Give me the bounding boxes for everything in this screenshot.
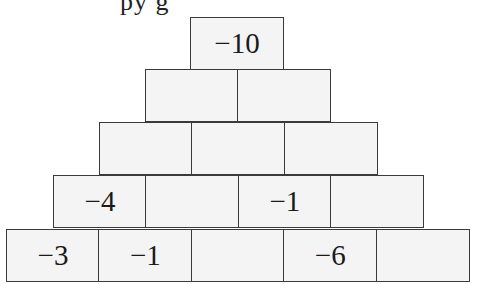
pyramid-cell[interactable] (191, 229, 285, 282)
pyramid-cell[interactable] (376, 229, 470, 282)
pyramid-row-2 (145, 69, 331, 122)
pyramid-cell[interactable] (99, 122, 193, 175)
pyramid-cell[interactable]: −6 (283, 229, 377, 282)
pyramid-cell[interactable]: −10 (190, 17, 284, 70)
pyramid-row-1: −10 (190, 17, 284, 70)
pyramid-cell[interactable] (237, 69, 331, 122)
pyramid-row-4: −4 −1 (53, 175, 424, 228)
pyramid-cell[interactable]: −1 (98, 229, 192, 282)
pyramid-cell[interactable] (191, 122, 285, 175)
pyramid-cell[interactable] (145, 175, 239, 228)
pyramid-row-5: −3 −1 −6 (6, 229, 470, 282)
cropped-heading-text: py g (120, 0, 170, 17)
pyramid-cell[interactable]: −4 (53, 175, 147, 228)
pyramid-cell[interactable] (145, 69, 239, 122)
pyramid-cell[interactable] (330, 175, 424, 228)
pyramid-cell[interactable] (284, 122, 378, 175)
pyramid-cell[interactable]: −3 (6, 229, 100, 282)
pyramid-cell[interactable]: −1 (238, 175, 332, 228)
pyramid-row-3 (99, 122, 378, 175)
